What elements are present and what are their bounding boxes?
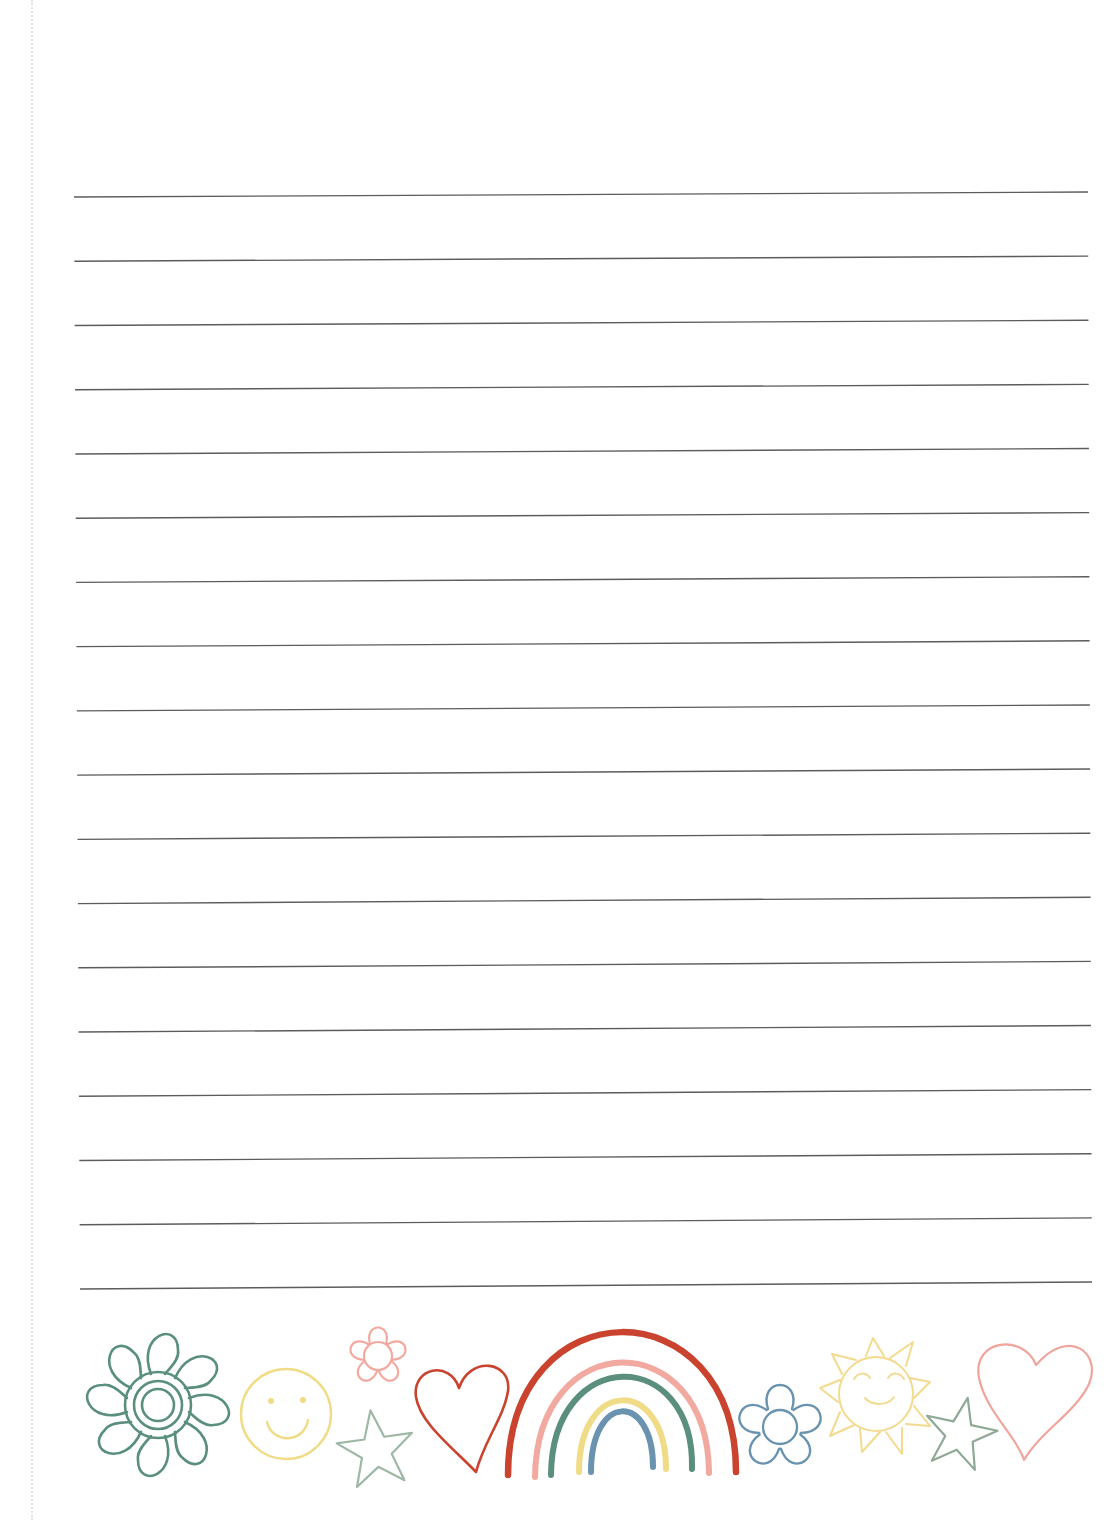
bottom-decoration-border xyxy=(0,0,1112,1520)
rainbow-icon xyxy=(508,1332,736,1477)
star-icon xyxy=(918,1390,1003,1472)
heart-icon xyxy=(416,1366,509,1472)
flower-icon xyxy=(87,1334,229,1476)
sun-icon xyxy=(820,1338,930,1454)
star-icon xyxy=(333,1405,419,1489)
blue-flower-icon xyxy=(736,1385,824,1469)
heart-icon xyxy=(978,1344,1092,1460)
small-flower-icon xyxy=(348,1328,408,1385)
smiley-face-icon xyxy=(241,1369,331,1459)
